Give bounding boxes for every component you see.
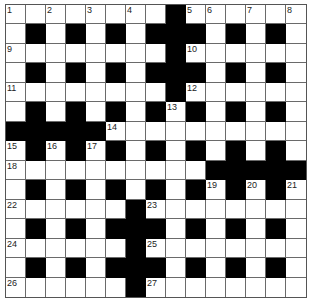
answer-cell[interactable] xyxy=(66,278,86,297)
answer-cell[interactable] xyxy=(86,219,106,238)
answer-cell[interactable] xyxy=(226,5,246,24)
answer-cell[interactable] xyxy=(46,24,66,43)
answer-cell[interactable] xyxy=(26,200,46,219)
answer-cell[interactable] xyxy=(66,200,86,219)
answer-cell[interactable] xyxy=(46,219,66,238)
answer-cell[interactable] xyxy=(126,141,146,160)
answer-cell[interactable]: 7 xyxy=(246,5,266,24)
answer-cell[interactable] xyxy=(206,122,226,141)
answer-cell[interactable] xyxy=(46,200,66,219)
answer-cell[interactable] xyxy=(126,180,146,199)
answer-cell[interactable] xyxy=(46,239,66,258)
answer-cell[interactable] xyxy=(26,278,46,297)
answer-cell[interactable] xyxy=(126,161,146,180)
answer-cell[interactable] xyxy=(106,161,126,180)
answer-cell[interactable] xyxy=(146,161,166,180)
answer-cell[interactable] xyxy=(166,219,186,238)
answer-cell[interactable] xyxy=(166,278,186,297)
answer-cell[interactable] xyxy=(226,200,246,219)
answer-cell[interactable] xyxy=(206,200,226,219)
answer-cell[interactable] xyxy=(86,102,106,121)
answer-cell[interactable] xyxy=(46,180,66,199)
answer-cell[interactable]: 6 xyxy=(206,5,226,24)
answer-cell[interactable]: 19 xyxy=(206,180,226,199)
answer-cell[interactable] xyxy=(166,258,186,277)
answer-cell[interactable] xyxy=(246,24,266,43)
answer-cell[interactable]: 5 xyxy=(186,5,206,24)
answer-cell[interactable] xyxy=(46,161,66,180)
answer-cell[interactable] xyxy=(86,63,106,82)
answer-cell[interactable] xyxy=(226,83,246,102)
answer-cell[interactable] xyxy=(106,5,126,24)
answer-cell[interactable] xyxy=(46,83,66,102)
answer-cell[interactable] xyxy=(186,161,206,180)
answer-cell[interactable] xyxy=(206,44,226,63)
answer-cell[interactable] xyxy=(266,5,286,24)
answer-cell[interactable] xyxy=(46,258,66,277)
answer-cell[interactable] xyxy=(286,83,306,102)
answer-cell[interactable] xyxy=(186,200,206,219)
answer-cell[interactable]: 10 xyxy=(186,44,206,63)
answer-cell[interactable] xyxy=(86,239,106,258)
answer-cell[interactable] xyxy=(286,219,306,238)
answer-cell[interactable] xyxy=(206,219,226,238)
answer-cell[interactable]: 9 xyxy=(6,44,26,63)
answer-cell[interactable] xyxy=(246,200,266,219)
answer-cell[interactable] xyxy=(286,102,306,121)
answer-cell[interactable]: 3 xyxy=(86,5,106,24)
answer-cell[interactable] xyxy=(146,5,166,24)
answer-cell[interactable] xyxy=(246,258,266,277)
answer-cell[interactable] xyxy=(86,44,106,63)
answer-cell[interactable] xyxy=(266,278,286,297)
answer-cell[interactable] xyxy=(246,63,266,82)
answer-cell[interactable] xyxy=(226,44,246,63)
answer-cell[interactable] xyxy=(246,122,266,141)
answer-cell[interactable] xyxy=(186,278,206,297)
answer-cell[interactable] xyxy=(166,141,186,160)
answer-cell[interactable] xyxy=(206,83,226,102)
answer-cell[interactable] xyxy=(286,200,306,219)
answer-cell[interactable]: 22 xyxy=(6,200,26,219)
answer-cell[interactable] xyxy=(46,44,66,63)
answer-cell[interactable] xyxy=(106,83,126,102)
answer-cell[interactable] xyxy=(6,63,26,82)
answer-cell[interactable] xyxy=(46,102,66,121)
answer-cell[interactable] xyxy=(166,122,186,141)
answer-cell[interactable]: 12 xyxy=(186,83,206,102)
answer-cell[interactable] xyxy=(206,24,226,43)
answer-cell[interactable] xyxy=(206,258,226,277)
answer-cell[interactable]: 27 xyxy=(146,278,166,297)
answer-cell[interactable] xyxy=(146,83,166,102)
answer-cell[interactable] xyxy=(266,122,286,141)
answer-cell[interactable] xyxy=(166,200,186,219)
answer-cell[interactable]: 1 xyxy=(6,5,26,24)
answer-cell[interactable] xyxy=(126,83,146,102)
answer-cell[interactable] xyxy=(286,278,306,297)
answer-cell[interactable] xyxy=(86,278,106,297)
answer-cell[interactable] xyxy=(206,102,226,121)
answer-cell[interactable] xyxy=(6,180,26,199)
answer-cell[interactable]: 15 xyxy=(6,141,26,160)
answer-cell[interactable] xyxy=(86,258,106,277)
answer-cell[interactable]: 14 xyxy=(106,122,126,141)
answer-cell[interactable] xyxy=(266,239,286,258)
answer-cell[interactable] xyxy=(266,83,286,102)
answer-cell[interactable] xyxy=(126,44,146,63)
answer-cell[interactable]: 23 xyxy=(146,200,166,219)
answer-cell[interactable]: 26 xyxy=(6,278,26,297)
answer-cell[interactable] xyxy=(246,44,266,63)
answer-cell[interactable] xyxy=(66,83,86,102)
answer-cell[interactable] xyxy=(206,278,226,297)
answer-cell[interactable]: 13 xyxy=(166,102,186,121)
answer-cell[interactable] xyxy=(166,161,186,180)
answer-cell[interactable] xyxy=(286,258,306,277)
answer-cell[interactable] xyxy=(146,122,166,141)
answer-cell[interactable] xyxy=(26,83,46,102)
answer-cell[interactable]: 17 xyxy=(86,141,106,160)
answer-cell[interactable] xyxy=(86,200,106,219)
answer-cell[interactable] xyxy=(246,278,266,297)
answer-cell[interactable] xyxy=(66,239,86,258)
answer-cell[interactable] xyxy=(226,239,246,258)
answer-cell[interactable] xyxy=(226,122,246,141)
answer-cell[interactable] xyxy=(246,239,266,258)
